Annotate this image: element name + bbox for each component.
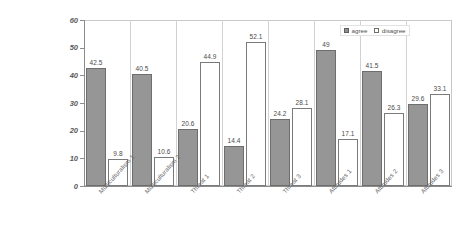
y-axis-line <box>84 20 85 187</box>
bar-disagree-4 <box>246 42 266 186</box>
x-axis-line <box>84 186 452 187</box>
bar-agree-7 <box>362 71 382 186</box>
bar-chart: 0102030405060 42.59.840.510.620.644.914.… <box>0 0 464 240</box>
bar-agree-1 <box>86 68 106 186</box>
bar-value-label: 20.6 <box>173 120 203 127</box>
bar-agree-6 <box>316 50 336 186</box>
y-tick-label: 60 <box>56 16 78 25</box>
y-tick-label: 40 <box>56 71 78 80</box>
bar-value-label: 29.6 <box>403 95 433 102</box>
bar-value-label: 52.1 <box>241 33 271 40</box>
bar-value-label: 33.1 <box>425 85 455 92</box>
y-tick-label: 0 <box>56 182 78 191</box>
bar-value-label: 14.4 <box>219 137 249 144</box>
y-tick-label: 10 <box>56 154 78 163</box>
legend-item-disagree: disagree <box>374 27 405 34</box>
bar-agree-5 <box>270 119 290 186</box>
bar-value-label: 40.5 <box>127 65 157 72</box>
bar-value-label: 42.5 <box>81 59 111 66</box>
legend-swatch-disagree-icon <box>374 28 379 33</box>
y-tick-mark <box>80 158 84 159</box>
bar-agree-8 <box>408 104 428 186</box>
legend-label-disagree: disagree <box>382 27 406 34</box>
legend-label-agree: agree <box>352 27 368 34</box>
y-tick-mark <box>80 186 84 187</box>
y-tick-mark <box>80 20 84 21</box>
bar-value-label: 26.3 <box>379 104 409 111</box>
y-tick-mark <box>80 131 84 132</box>
category-separator <box>222 20 223 186</box>
bar-value-label: 17.1 <box>333 130 363 137</box>
category-separator <box>268 20 269 186</box>
bar-agree-2 <box>132 74 152 186</box>
y-tick-mark <box>80 75 84 76</box>
bar-value-label: 49 <box>311 41 341 48</box>
category-separator <box>360 20 361 186</box>
legend-swatch-agree-icon <box>344 28 349 33</box>
legend-item-agree: agree <box>344 27 367 34</box>
y-tick-mark <box>80 48 84 49</box>
bar-value-label: 28.1 <box>287 99 317 106</box>
y-tick-mark <box>80 103 84 104</box>
y-tick-label: 20 <box>56 126 78 135</box>
y-tick-label: 50 <box>56 43 78 52</box>
bar-agree-4 <box>224 146 244 186</box>
bar-disagree-3 <box>200 62 220 186</box>
bar-value-label: 41.5 <box>357 62 387 69</box>
y-tick-label: 30 <box>56 99 78 108</box>
bar-value-label: 24.2 <box>265 110 295 117</box>
bar-value-label: 44.9 <box>195 53 225 60</box>
chart-legend: agree disagree <box>340 25 410 36</box>
category-separator <box>406 20 407 186</box>
